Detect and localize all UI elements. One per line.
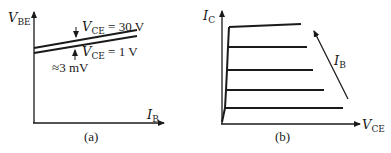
arrow-label-ib: IB bbox=[333, 53, 346, 70]
y-axis-label-b: IC bbox=[202, 8, 215, 25]
gap-annotation: ≈3 mV bbox=[52, 60, 89, 75]
x-axis-label-a: IB bbox=[146, 107, 159, 124]
y-axis-label-a: VBE bbox=[8, 10, 31, 27]
x-axis-label-b: VCE bbox=[362, 117, 385, 134]
panel-a: VBE IB VCE = 30 V VCE = 1 V ≈3 mV (a) bbox=[8, 10, 164, 144]
caption-a: (a) bbox=[84, 129, 98, 144]
curve-label-30v: VCE = 30 V bbox=[82, 19, 145, 36]
caption-b: (b) bbox=[275, 129, 290, 144]
panel-b: IC VCE IB (b) bbox=[202, 8, 385, 144]
ic-curve-5 bbox=[229, 24, 301, 27]
curve-label-1v: VCE = 1 V bbox=[82, 44, 138, 61]
